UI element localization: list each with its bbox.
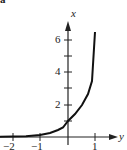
x-tick-label-neg2: −2 bbox=[3, 141, 15, 150]
y-axis-label: x bbox=[71, 8, 76, 19]
panel-label: a bbox=[0, 0, 6, 5]
x-axis-label: y bbox=[119, 131, 124, 142]
x-tick-label-neg1: −1 bbox=[31, 141, 43, 150]
y-tick-label-6: 6 bbox=[55, 34, 61, 45]
chart-canvas bbox=[0, 0, 127, 150]
exponential-curve bbox=[0, 32, 95, 137]
x-tick-label-1: 1 bbox=[92, 141, 98, 150]
y-tick-label-4: 4 bbox=[55, 66, 61, 77]
y-axis-arrow-icon bbox=[65, 21, 71, 31]
y-tick-label-2: 2 bbox=[55, 99, 61, 110]
x-axis-arrow-icon bbox=[109, 134, 118, 140]
